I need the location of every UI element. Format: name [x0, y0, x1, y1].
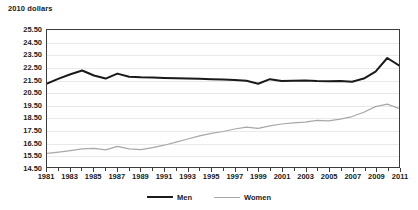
x-axis-tick-label: 1997 [226, 172, 243, 181]
x-axis-tick-mark [341, 168, 342, 171]
legend-label-men: Men [177, 193, 192, 202]
line-chart: 2010 dollars 25.5024.5023.5022.5021.5020… [0, 0, 418, 210]
x-axis-tick-mark [58, 168, 59, 171]
chart-legend: Men Women [0, 188, 418, 206]
x-axis-tick-mark [317, 168, 318, 171]
x-axis-tick-label: 1983 [61, 172, 78, 181]
x-axis-tick-mark [176, 168, 177, 171]
x-axis-tick-label: 2001 [274, 172, 291, 181]
x-axis-tick-mark [247, 168, 248, 171]
x-axis-tick-mark [199, 168, 200, 171]
x-axis-tick-label: 1989 [132, 172, 149, 181]
x-axis-tick-label: 2009 [368, 172, 385, 181]
x-axis-tick-mark [388, 168, 389, 171]
x-axis-labels: 1981198319851987198919911993199519971999… [0, 0, 418, 210]
x-axis-tick-mark [129, 168, 130, 171]
x-axis-tick-label: 2011 [392, 172, 408, 181]
x-axis-tick-mark [270, 168, 271, 171]
x-axis-tick-label: 2007 [344, 172, 361, 181]
x-axis-tick-label: 1999 [250, 172, 267, 181]
x-axis-tick-label: 1995 [203, 172, 220, 181]
x-axis-tick-mark [223, 168, 224, 171]
legend-entry-men: Men [147, 193, 192, 202]
x-axis-tick-mark [294, 168, 295, 171]
x-axis-tick-label: 1985 [85, 172, 102, 181]
x-axis-tick-label: 2005 [321, 172, 338, 181]
x-axis-tick-mark [81, 168, 82, 171]
x-axis-tick-label: 2003 [297, 172, 314, 181]
x-axis-tick-mark [105, 168, 106, 171]
legend-entry-women: Women [214, 193, 271, 202]
x-axis-tick-label: 1991 [156, 172, 173, 181]
x-axis-tick-label: 1987 [108, 172, 125, 181]
x-axis-tick-label: 1981 [38, 172, 55, 181]
x-axis-tick-mark [152, 168, 153, 171]
x-axis-tick-label: 1993 [179, 172, 196, 181]
legend-label-women: Women [244, 193, 271, 202]
legend-line-men-icon [147, 196, 173, 198]
legend-line-women-icon [214, 197, 240, 198]
x-axis-tick-mark [365, 168, 366, 171]
